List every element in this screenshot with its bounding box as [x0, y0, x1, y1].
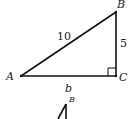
- vertex-c-dot: [115, 75, 117, 77]
- side-bc-label: 5: [120, 37, 127, 50]
- side-ac-label: b: [65, 82, 72, 95]
- right-angle-marker: [108, 68, 116, 76]
- side-ab: [21, 12, 116, 76]
- second-figure-vertex-label: B: [68, 95, 75, 104]
- triangle-diagram: A B C 10 5 b B: [0, 0, 128, 119]
- vertex-a-dot: [20, 75, 22, 77]
- vertex-label-a: A: [5, 70, 14, 83]
- vertex-label-c: C: [119, 71, 128, 84]
- vertex-b-dot: [115, 11, 117, 13]
- vertex-label-b: B: [116, 0, 125, 11]
- second-figure-slant-side: [58, 104, 66, 119]
- hypotenuse-label: 10: [57, 30, 71, 43]
